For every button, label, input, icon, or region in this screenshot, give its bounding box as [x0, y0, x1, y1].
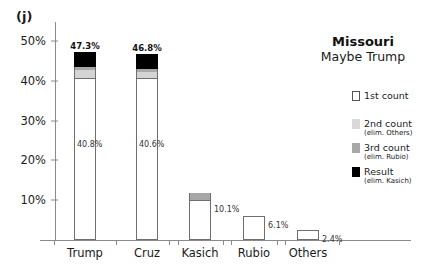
y-axis-tick-label: 20% — [0, 153, 46, 167]
y-axis-tick-label: 40% — [0, 74, 46, 88]
legend-label: 2nd count — [364, 118, 426, 129]
legend-items: 1st count2nd count(elim. Others)3rd coun… — [300, 90, 426, 185]
legend-item-3rd-count: 3rd count(elim. Rubio) — [352, 142, 426, 161]
bar-value-label: 40.6% — [139, 140, 164, 149]
bar-value-label: 10.1% — [214, 205, 239, 214]
x-axis-label-trump: Trump — [67, 246, 103, 260]
bar-group-trump: 47.3%40.8% — [74, 0, 96, 240]
y-axis-tick-label: 50% — [0, 34, 46, 48]
legend-swatch-medium-gray — [352, 143, 360, 153]
bar-top-label: 47.3% — [70, 41, 100, 51]
bar-segment-result — [136, 54, 158, 69]
y-axis-tick-mark — [51, 200, 58, 201]
legend-swatch-black — [352, 167, 360, 177]
chart-legend: Missouri Maybe Trump 1st count2nd count(… — [300, 34, 426, 190]
bar-segment-second-count — [136, 72, 158, 79]
legend-item-result: Result(elim. Kasich) — [352, 166, 426, 185]
legend-sublabel: (elim. Rubio) — [364, 153, 426, 161]
legend-label: Result — [364, 166, 426, 177]
legend-item-2nd-count: 2nd count(elim. Others) — [352, 118, 426, 137]
bar-segment-third-count — [136, 69, 158, 72]
x-axis-tick-mark — [277, 240, 278, 245]
x-axis-tick-mark — [178, 240, 179, 245]
y-axis-tick-mark — [51, 160, 58, 161]
legend-sublabel: (elim. Kasich) — [364, 177, 426, 185]
bar-segment-first-count — [243, 216, 265, 240]
bar-segment-second-count — [74, 70, 96, 77]
legend-swatch-light-gray — [352, 119, 360, 129]
bar-value-label: 40.8% — [77, 140, 102, 149]
bar-segment-first-count — [136, 78, 158, 240]
x-axis-label-rubio: Rubio — [238, 246, 270, 260]
panel-label: (j) — [16, 9, 32, 24]
y-axis-line — [55, 22, 56, 240]
bar-segment-first-count — [189, 200, 211, 240]
legend-subtitle: Maybe Trump — [300, 49, 426, 64]
bar-top-label: 46.8% — [132, 43, 162, 53]
y-axis-tick-label: 10% — [0, 193, 46, 207]
bar-segment-third-count — [74, 67, 96, 70]
x-axis-tick-mark — [223, 240, 224, 245]
y-axis-tick-mark — [51, 120, 58, 121]
legend-label: 1st count — [364, 90, 426, 101]
x-axis-tick-mark — [169, 240, 170, 245]
y-axis-tick-label: 30% — [0, 114, 46, 128]
bar-group-kasich: 10.1% — [189, 0, 211, 240]
x-axis-label-kasich: Kasich — [181, 246, 218, 260]
y-axis-tick-mark — [51, 80, 58, 81]
x-axis-tick-mark — [339, 240, 340, 245]
chart-figure: (j) 10%20%30%40%50% 47.3%40.8%46.8%40.6%… — [0, 0, 426, 277]
bar-segment-first-count — [297, 230, 319, 240]
legend-title: Missouri — [300, 34, 426, 49]
x-axis-tick-mark — [285, 240, 286, 245]
bar-group-cruz: 46.8%40.6% — [136, 0, 158, 240]
legend-label: 3rd count — [364, 142, 426, 153]
bar-value-label: 6.1% — [268, 221, 288, 230]
x-axis-tick-mark — [231, 240, 232, 245]
legend-item-1st-count: 1st count — [352, 90, 426, 105]
x-axis-line — [40, 240, 411, 241]
x-axis-tick-mark — [54, 240, 55, 245]
y-axis-tick-mark — [51, 41, 58, 42]
bar-segment-first-count — [74, 78, 96, 240]
x-axis-label-others: Others — [289, 246, 328, 260]
bar-group-rubio: 6.1% — [243, 0, 265, 240]
bar-segment-result — [74, 52, 96, 68]
legend-sublabel: (elim. Others) — [364, 129, 426, 137]
x-axis-label-cruz: Cruz — [134, 246, 160, 260]
x-axis-tick-mark — [116, 240, 117, 245]
legend-swatch-white — [352, 91, 360, 101]
bar-segment-third-count — [189, 193, 211, 200]
